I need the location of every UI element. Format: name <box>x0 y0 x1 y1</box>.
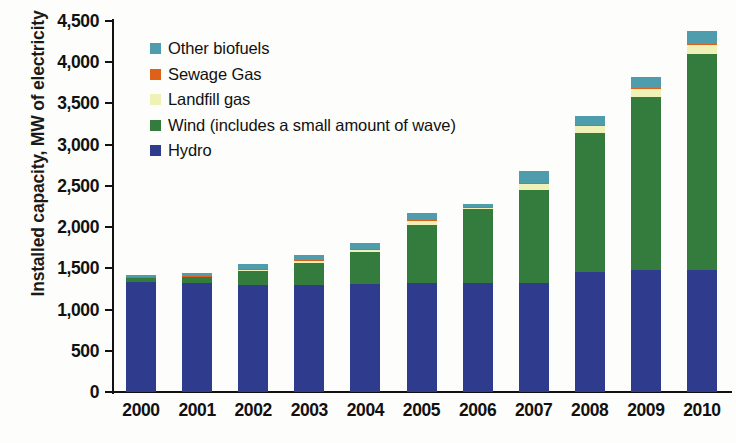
x-axis-label-2010: 2010 <box>674 400 730 421</box>
bar-segment <box>463 207 493 209</box>
bar-segment <box>182 283 212 392</box>
x-axis-label-2004: 2004 <box>337 400 393 421</box>
stacked-bar-chart: Installed capacity, MW of electricity 05… <box>0 0 736 443</box>
x-axis-label-2003: 2003 <box>281 400 337 421</box>
bar-segment <box>294 285 324 392</box>
bar-segment <box>575 133 605 272</box>
bar-segment <box>238 269 268 271</box>
bar-segment <box>519 190 549 283</box>
y-axis-tick-label: 2,000 <box>0 217 99 238</box>
legend-item-label: Hydro <box>168 141 212 160</box>
x-axis-label-2005: 2005 <box>393 400 449 421</box>
legend-item[interactable]: Sewage Gas <box>150 62 456 88</box>
y-axis-tick-label: 1,000 <box>0 300 99 321</box>
bar-segment <box>519 184 549 190</box>
x-axis-label-2001: 2001 <box>169 400 225 421</box>
bar-2007 <box>519 171 549 392</box>
bar-segment <box>575 125 605 133</box>
bar-segment <box>519 283 549 392</box>
bar-segment <box>407 221 437 225</box>
y-axis-tick-label: 2,500 <box>0 176 99 197</box>
bar-2009 <box>631 77 661 392</box>
y-axis-tick <box>105 185 113 187</box>
bar-2005 <box>407 213 437 392</box>
bar-segment <box>238 285 268 392</box>
bar-segment <box>463 209 493 283</box>
bar-segment <box>687 54 717 270</box>
bar-segment <box>182 276 212 277</box>
bar-segment <box>575 116 605 125</box>
bar-segment <box>631 270 661 392</box>
y-axis-tick-label: 3,500 <box>0 93 99 114</box>
legend-item[interactable]: Hydro <box>150 138 456 164</box>
y-axis-tick-label: 4,500 <box>0 11 99 32</box>
bar-segment <box>238 264 268 269</box>
y-axis-tick <box>105 226 113 228</box>
bar-segment <box>350 252 380 283</box>
bar-segment <box>687 31 717 44</box>
y-axis-tick <box>105 102 113 104</box>
bar-segment <box>126 277 156 278</box>
bar-segment <box>350 249 380 252</box>
legend-item-label: Landfill gas <box>168 90 250 109</box>
bar-2003 <box>294 255 324 392</box>
bar-2010 <box>687 31 717 392</box>
x-axis-label-2000: 2000 <box>113 400 169 421</box>
bar-segment <box>631 88 661 97</box>
legend-item[interactable]: Other biofuels <box>150 36 456 62</box>
bar-segment <box>350 284 380 392</box>
bar-segment <box>687 45 717 54</box>
legend-swatch-icon <box>150 145 161 156</box>
bar-segment <box>350 243 380 249</box>
legend-item-label: Wind (includes a small amount of wave) <box>168 116 456 135</box>
y-axis-tick-label: 0 <box>0 382 99 403</box>
bar-segment <box>519 171 549 183</box>
legend-swatch-icon <box>150 120 161 131</box>
bar-2006 <box>463 204 493 392</box>
y-axis-tick <box>105 20 113 22</box>
bar-segment <box>182 277 212 282</box>
bar-segment <box>631 97 661 270</box>
x-axis-label-2009: 2009 <box>618 400 674 421</box>
bar-2002 <box>238 264 268 392</box>
x-axis-label-2007: 2007 <box>506 400 562 421</box>
bar-segment <box>126 282 156 392</box>
bar-segment <box>407 225 437 284</box>
legend-item-label: Sewage Gas <box>168 65 261 84</box>
bar-segment <box>182 273 212 276</box>
x-axis-label-2002: 2002 <box>225 400 281 421</box>
y-axis-tick <box>105 350 113 352</box>
y-axis-tick-label: 4,000 <box>0 52 99 73</box>
bar-segment <box>687 270 717 392</box>
legend-item-label: Other biofuels <box>168 39 269 58</box>
bar-2000 <box>126 275 156 392</box>
bar-2004 <box>350 243 380 392</box>
legend-item[interactable]: Wind (includes a small amount of wave) <box>150 113 456 139</box>
y-axis-tick-label: 500 <box>0 341 99 362</box>
legend-swatch-icon <box>150 43 161 54</box>
bar-segment <box>631 77 661 88</box>
y-axis-tick-label: 1,500 <box>0 258 99 279</box>
bar-segment <box>238 271 268 285</box>
y-axis-tick <box>105 391 113 393</box>
x-axis-label-2008: 2008 <box>562 400 618 421</box>
chart-legend: Other biofuelsSewage GasLandfill gasWind… <box>150 36 456 164</box>
bar-segment <box>294 261 324 263</box>
bar-segment <box>575 272 605 392</box>
bar-segment <box>294 255 324 260</box>
bar-segment <box>294 263 324 285</box>
y-axis-tick <box>105 309 113 311</box>
legend-item[interactable]: Landfill gas <box>150 87 456 113</box>
bar-segment <box>126 275 156 277</box>
bar-segment <box>407 283 437 392</box>
bar-segment <box>407 213 437 220</box>
legend-swatch-icon <box>150 94 161 105</box>
x-axis-label-2006: 2006 <box>450 400 506 421</box>
legend-swatch-icon <box>150 69 161 80</box>
bar-segment <box>126 278 156 282</box>
y-axis-tick <box>105 267 113 269</box>
bar-segment <box>463 283 493 392</box>
bar-2001 <box>182 273 212 392</box>
y-axis-tick <box>105 61 113 63</box>
y-axis-tick-label: 3,000 <box>0 135 99 156</box>
